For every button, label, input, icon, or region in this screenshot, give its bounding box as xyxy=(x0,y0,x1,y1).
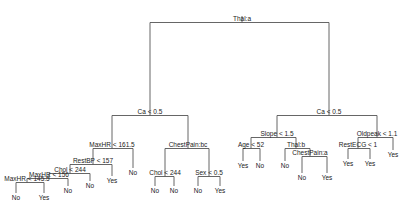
leaf-label: No xyxy=(151,187,160,194)
split-label: Chol < 244 xyxy=(149,169,181,176)
leaf-label: No xyxy=(64,187,73,194)
split-label: Ca < 0.5 xyxy=(317,108,342,115)
leaf-label: Yes xyxy=(107,177,118,184)
split-label: MaxHR < 145.5 xyxy=(4,175,50,182)
split-label: RestECG < 1 xyxy=(339,141,378,148)
split-label: Age < 52 xyxy=(238,141,265,149)
leaf-label: No xyxy=(281,162,290,169)
leaf-label: Yes xyxy=(365,160,376,167)
leaf-label: No xyxy=(170,187,179,194)
split-label: Oldpeak < 1.1 xyxy=(357,130,398,138)
tree-edge xyxy=(348,149,370,160)
tree-edge xyxy=(198,177,220,187)
leaf-label: No xyxy=(86,182,95,189)
split-label: Thal:b xyxy=(287,141,305,148)
leaf-label: No xyxy=(129,169,138,176)
tree-edge xyxy=(155,177,174,187)
tree-edge xyxy=(16,183,44,194)
leaf-label: No xyxy=(256,162,265,169)
leaf-label: Yes xyxy=(322,174,333,181)
leaf-label: No xyxy=(194,187,203,194)
leaf-label: Yes xyxy=(238,162,249,169)
leaf-label: Yes xyxy=(215,187,226,194)
leaf-label: Yes xyxy=(388,151,399,158)
split-label: ChestPain:a xyxy=(292,149,328,156)
split-label: Thal:a xyxy=(233,15,251,22)
leaf-label: Yes xyxy=(343,160,354,167)
split-label: ChestPain:bc xyxy=(169,141,208,148)
leaf-label: No xyxy=(12,194,21,201)
tree-labels: Thal:aCa < 0.5Ca < 0.5MaxHR < 161.5Chest… xyxy=(4,15,399,201)
leaf-label: Yes xyxy=(39,194,50,201)
tree-edge xyxy=(302,157,327,174)
leaf-label: No xyxy=(298,174,307,181)
split-label: MaxHR < 161.5 xyxy=(89,141,135,148)
split-label: Slope < 1.5 xyxy=(260,130,293,138)
split-label: Ca < 0.5 xyxy=(138,108,163,115)
split-label: Sex < 0.5 xyxy=(195,169,223,176)
tree-edge xyxy=(243,149,260,162)
decision-tree-diagram: Thal:aCa < 0.5Ca < 0.5MaxHR < 161.5Chest… xyxy=(0,0,412,210)
tree-edge xyxy=(150,23,329,116)
split-label: RestBP < 157 xyxy=(73,157,114,164)
